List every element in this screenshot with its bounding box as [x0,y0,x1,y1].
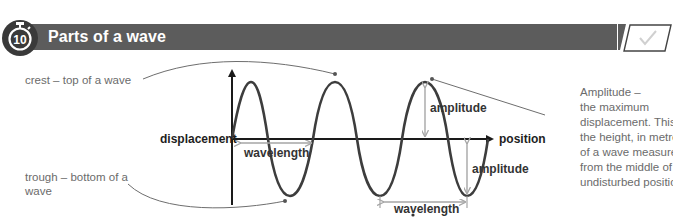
trough-label-line2: wave [25,184,52,199]
amplitude-label-2: amplitude [472,162,529,176]
x-axis-label: position [499,132,546,146]
amplitude-label-1: amplitude [430,101,487,115]
amplitude-definition: Amplitude – the maximum displacement. Th… [580,85,672,190]
wavelength-label-2: wavelength [394,202,459,216]
trough-leader-line [128,184,285,208]
crest-leader-line [143,61,335,79]
wavelength-label-1: wavelength [244,146,309,160]
trough-label-line1: trough – bottom of a [25,170,128,185]
wave-diagram [0,0,673,222]
y-axis-label: displacement [160,132,237,146]
crest-label: crest – top of a wave [25,73,131,88]
